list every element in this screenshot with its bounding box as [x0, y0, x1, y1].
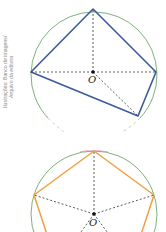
image-credit: Ilustrações: Banco de imagens/ Arquivo d… — [2, 0, 12, 110]
diagram-canvas — [0, 0, 166, 232]
radius-p-right — [94, 195, 154, 214]
radius-bottom — [93, 72, 138, 116]
quadrilateral — [31, 9, 156, 116]
center-point-2 — [92, 212, 96, 216]
circle-1-fade-right — [122, 118, 140, 132]
center-label-1: O — [88, 74, 96, 85]
radius-p-left — [34, 195, 94, 214]
circle-1-fade-left — [48, 118, 64, 132]
figure-1 — [31, 9, 157, 132]
radius-p-lowright — [94, 214, 131, 232]
center-label-2: O — [89, 217, 97, 228]
circle-1-arc — [31, 12, 157, 118]
credit-line-2: Arquivo da editora — [8, 36, 14, 108]
